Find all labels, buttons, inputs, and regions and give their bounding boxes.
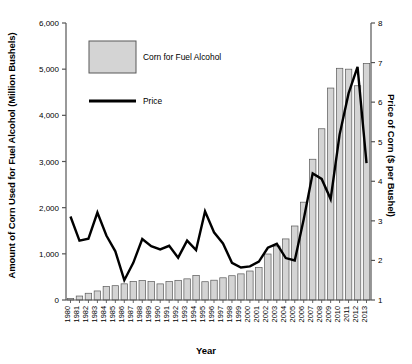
x-tick-label: 1981 [72, 306, 81, 322]
bar [85, 293, 91, 300]
x-tick-label: 1987 [126, 306, 135, 322]
bar [121, 284, 127, 300]
x-tick-label: 2003 [270, 306, 279, 322]
x-tick-label: 2012 [351, 306, 360, 322]
x-tick-label: 2008 [315, 306, 324, 322]
bar [220, 278, 226, 300]
y-tick-label-left: 1,000 [39, 250, 60, 259]
y-tick-label-left: 4,000 [39, 111, 60, 120]
x-tick-label: 2002 [261, 306, 270, 322]
bar [130, 281, 136, 300]
x-tick-label: 1992 [171, 306, 180, 322]
x-tick-label: 2007 [306, 306, 315, 322]
x-tick-label: 1983 [90, 306, 99, 322]
x-tick-label: 1998 [225, 306, 234, 322]
legend: Corn for Fuel AlcoholPrice [89, 41, 221, 106]
bar [175, 280, 181, 300]
y-tick-label-right: 3 [378, 217, 383, 226]
y-tick-label-left: 2,000 [39, 204, 60, 213]
x-tick-label: 2006 [297, 306, 306, 322]
x-tick-label: 2000 [243, 306, 252, 322]
bar [336, 68, 342, 300]
y-tick-label-right: 6 [378, 98, 383, 107]
bar [283, 239, 289, 300]
x-tick-label: 1996 [207, 306, 216, 322]
y-tick-label-left: 0 [55, 296, 60, 305]
x-tick-label: 1990 [153, 306, 162, 322]
y-tick-label-right: 5 [378, 138, 383, 147]
chart-container: Amount of Corn Used for Fuel Alcohol (Mi… [0, 0, 412, 364]
x-tick-label: 1986 [117, 306, 126, 322]
y-tick-label-right: 1 [378, 296, 383, 305]
x-tick-label: 2005 [288, 306, 297, 322]
x-tick-label: 1991 [162, 306, 171, 322]
bar [103, 287, 109, 300]
bar [166, 282, 172, 300]
y-tick-label-left: 3,000 [39, 158, 60, 167]
legend-bar-swatch [89, 41, 136, 73]
bar-series [67, 63, 369, 300]
y-axis-right-ticks: 12345678 [371, 19, 383, 305]
bar [202, 282, 208, 300]
bar [211, 280, 217, 300]
bar [265, 254, 271, 300]
y-tick-label-left: 5,000 [39, 65, 60, 74]
bar [318, 129, 324, 300]
x-tick-label: 2001 [252, 306, 261, 322]
x-tick-label: 1985 [108, 306, 117, 322]
bar [229, 276, 235, 300]
y-tick-label-right: 2 [378, 256, 383, 265]
y-tick-label-right: 4 [378, 177, 383, 186]
y-tick-label-left: 6,000 [39, 19, 60, 28]
bar [148, 282, 154, 300]
y-tick-label-right: 8 [378, 19, 383, 28]
bar [94, 291, 100, 300]
x-tick-label: 1993 [180, 306, 189, 322]
y-tick-label-right: 7 [378, 59, 383, 68]
bar [193, 275, 199, 300]
x-tick-label: 1997 [216, 306, 225, 322]
x-tick-label: 2013 [360, 306, 369, 322]
x-tick-label: 1995 [198, 306, 207, 322]
bar [112, 286, 118, 300]
bar [184, 279, 190, 300]
bar [238, 274, 244, 300]
bar [292, 226, 298, 300]
chart-svg: 01,0002,0003,0004,0005,0006,000 12345678… [0, 0, 412, 364]
x-tick-label: 2004 [279, 306, 288, 322]
y-axis-left-ticks: 01,0002,0003,0004,0005,0006,000 [39, 19, 66, 305]
bar [363, 63, 369, 300]
bar [157, 284, 163, 300]
x-tick-label: 2009 [324, 306, 333, 322]
x-tick-label: 2011 [342, 306, 351, 322]
bar [354, 86, 360, 300]
x-tick-label: 1982 [81, 306, 90, 322]
x-tick-label: 1999 [234, 306, 243, 322]
bar [256, 267, 262, 300]
bar [274, 246, 280, 300]
x-tick-label: 1994 [189, 306, 198, 322]
bar [247, 271, 253, 300]
x-tick-label: 2010 [333, 306, 342, 322]
x-tick-label: 1984 [99, 306, 108, 322]
bar [139, 280, 145, 300]
legend-line-label: Price [143, 96, 162, 106]
x-axis-ticks: 1980198119821983198419851986198719881989… [63, 300, 368, 322]
x-tick-label: 1989 [144, 306, 153, 322]
legend-bar-label: Corn for Fuel Alcohol [143, 52, 221, 62]
x-tick-label: 1988 [135, 306, 144, 322]
x-tick-label: 1980 [63, 306, 72, 322]
